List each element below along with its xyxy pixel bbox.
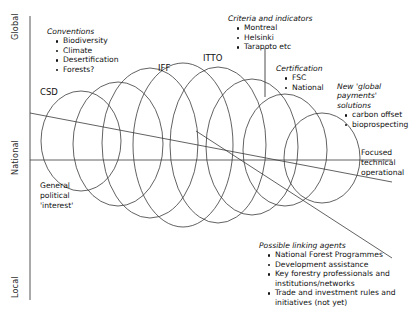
linking-agents-list: National Forest Programmes Development a… <box>259 250 396 307</box>
node-label-itto: ITTO <box>203 54 222 64</box>
label-focused-technical-operational: Focused technical operational <box>361 148 404 178</box>
list-item: FSC <box>285 73 324 82</box>
criteria-list: Montreal Helsinki Tarapoto etc <box>228 23 313 51</box>
list-item: Development assistance <box>268 260 396 269</box>
list-item: National Forest Programmes <box>268 250 396 259</box>
list-item: Desertification <box>56 55 119 64</box>
annotation-criteria: Criteria and indicators Montreal Helsink… <box>228 14 313 52</box>
node-label-csd: CSD <box>40 88 58 98</box>
funnel-ellipse-5 <box>206 79 298 215</box>
label-general-political-interest: General political 'interest' <box>40 181 73 211</box>
list-item: Forests? <box>56 65 119 74</box>
certification-list: FSC National <box>276 73 324 92</box>
new-payments-heading: New 'global payments' solutions <box>337 82 408 110</box>
list-item: Key forestry professionals and instituti… <box>268 269 396 288</box>
annotation-certification: Certification FSC National <box>276 64 324 92</box>
list-item: Tarapoto etc <box>237 42 313 51</box>
funnel-ellipse-0 <box>41 91 121 191</box>
list-item: Biodiversity <box>56 36 119 45</box>
new-payments-list: carbon offset bioprospecting <box>337 110 408 129</box>
list-item: National <box>285 83 324 92</box>
annotation-new-payments: New 'global payments' solutions carbon o… <box>337 82 408 129</box>
linking-agents-heading: Possible linking agents <box>259 241 396 250</box>
node-label-iff: IFF <box>158 64 170 74</box>
axis-label-local: Local <box>12 276 21 298</box>
list-item: Climate <box>56 46 119 55</box>
list-item: carbon offset <box>345 110 408 119</box>
criteria-heading: Criteria and indicators <box>228 14 313 23</box>
certification-heading: Certification <box>276 64 324 73</box>
axis-label-national: National <box>12 140 21 175</box>
list-item: bioprospecting <box>345 120 408 129</box>
list-item: Helsinki <box>237 33 313 42</box>
conventions-heading: Conventions <box>47 27 119 36</box>
funnel-ellipse-1 <box>73 82 163 206</box>
conventions-list: Biodiversity Climate Desertification For… <box>47 36 119 74</box>
list-item: Montreal <box>237 23 313 32</box>
list-item: Trade and investment rules and initiativ… <box>268 288 396 307</box>
annotation-linking-agents: Possible linking agents National Forest … <box>259 241 396 307</box>
funnel-ellipse-6 <box>243 94 327 206</box>
axis-label-global: Global <box>12 13 21 40</box>
annotation-conventions: Conventions Biodiversity Climate Deserti… <box>47 27 119 74</box>
